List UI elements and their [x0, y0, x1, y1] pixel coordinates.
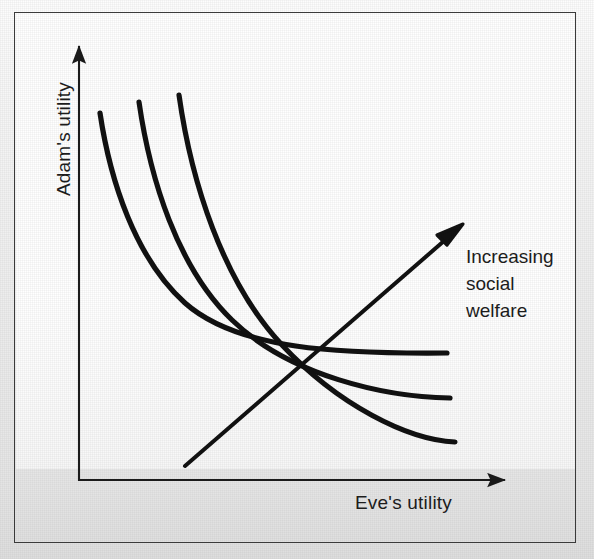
indifference-curve-1 [100, 113, 447, 353]
annotation-line-3: welfare [466, 297, 554, 324]
annotation-line-1: Increasing [466, 243, 554, 270]
figure-page: Adam's utility Eve's utility Increasing … [0, 0, 594, 559]
x-axis-label: Eve's utility [355, 492, 452, 514]
annotation-line-2: social [466, 270, 554, 297]
increasing-social-welfare-label: Increasing social welfare [466, 243, 554, 324]
y-axis-label: Adam's utility [53, 59, 75, 219]
